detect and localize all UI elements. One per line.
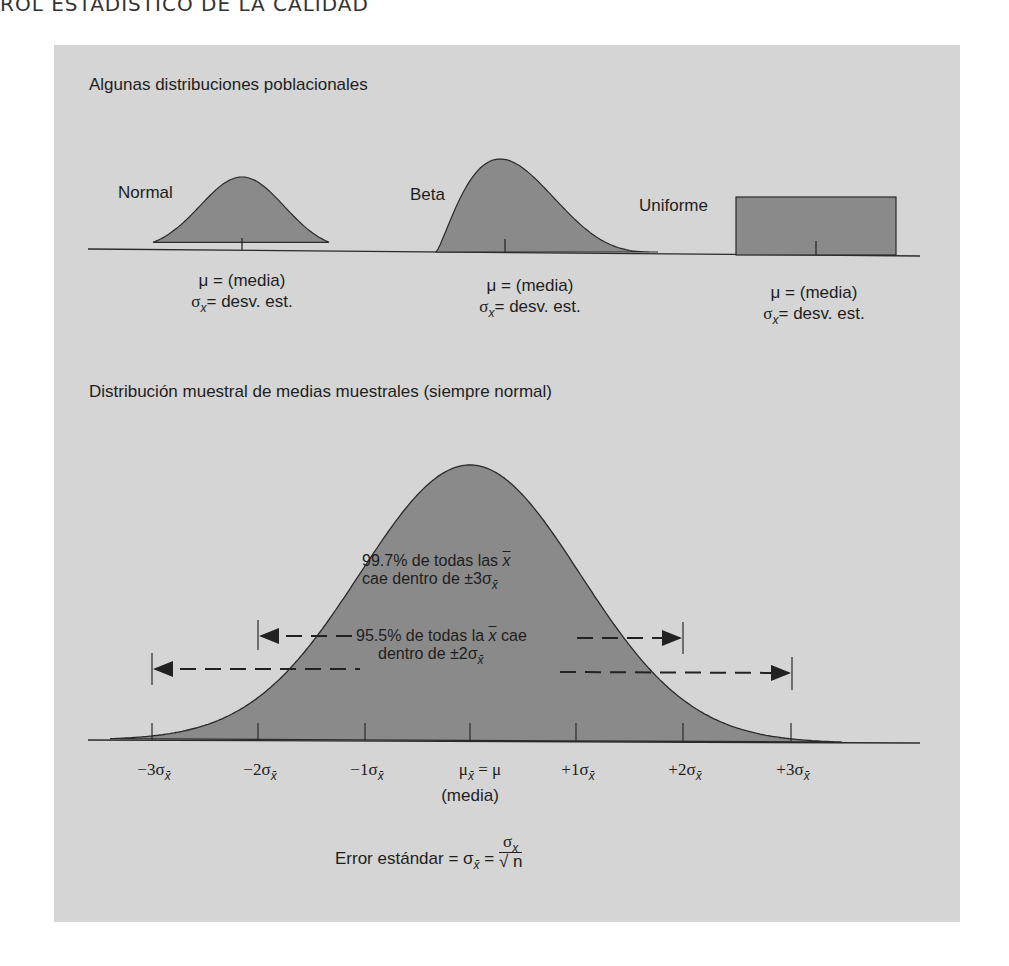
uniform-mu-label: μ = (media): [771, 283, 858, 303]
axis-label: −3σx̄: [137, 760, 170, 780]
distribution-figure: [0, 0, 1009, 966]
label-uniforme: Uniforme: [639, 196, 708, 216]
label-beta: Beta: [410, 185, 445, 205]
normal-mu-label: μ = (media): [199, 271, 286, 291]
normal-curve: [153, 177, 329, 242]
axis-label: +3σx̄: [776, 760, 809, 780]
beta-sigma-label: σx= desv. est.: [479, 297, 580, 317]
bottom-panel-title: Distribución muestral de medias muestral…: [89, 382, 552, 402]
normal-sigma-label: σx= desv. est.: [191, 292, 292, 312]
beta-curve: [436, 159, 658, 252]
top-panel-title: Algunas distribuciones poblacionales: [89, 75, 368, 95]
axis-label: +1σx̄: [561, 760, 594, 780]
axis-label: −2σx̄: [243, 760, 276, 780]
arrow-3sigma-right: [560, 672, 789, 673]
axis-label: μx̄ = μ: [459, 760, 501, 780]
axis-label: +2σx̄: [668, 760, 701, 780]
label-normal: Normal: [118, 183, 173, 203]
annotation-3sigma: 99.7% de todas las x cae dentro de ±3σx̄: [362, 552, 511, 588]
sampling-normal-curve: [110, 465, 842, 742]
uniform-sigma-label: σx= desv. est.: [763, 304, 864, 324]
annotation-2sigma: 95.5% de todas la x cae dentro de ±2σx̄: [356, 627, 527, 663]
standard-error-formula: Error estándar = σx̄ = σx√ n: [335, 847, 522, 871]
beta-mu-label: μ = (media): [487, 276, 574, 296]
axis-label: −1σx̄: [350, 760, 383, 780]
mean-caption: (media): [441, 786, 499, 806]
